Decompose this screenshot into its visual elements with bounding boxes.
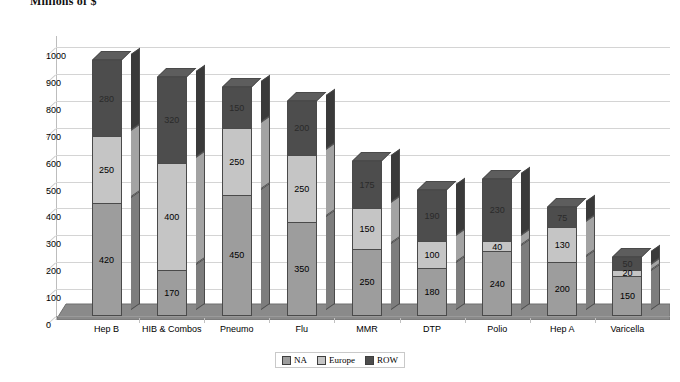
bar-segment-na[interactable]: 240 — [482, 251, 512, 316]
bar-side-row — [456, 177, 465, 234]
y-tick-label-700: 700 — [46, 132, 49, 142]
y-tick-label-500: 500 — [46, 186, 49, 196]
bar-segment-row[interactable]: 280 — [92, 60, 122, 135]
bar-segment-row[interactable]: 175 — [352, 161, 382, 208]
bar-side-na — [131, 191, 140, 310]
bar-stack: 23040240 — [482, 179, 512, 316]
bar-value-label: 350 — [288, 264, 316, 273]
bar-segment-na[interactable]: 450 — [222, 195, 252, 316]
bar-segment-na[interactable]: 420 — [92, 203, 122, 316]
legend-item-na[interactable]: NA — [282, 355, 307, 365]
bar-value-label: 280 — [93, 94, 121, 103]
legend-swatch-icon — [282, 356, 291, 365]
bar-value-label: 180 — [418, 287, 446, 296]
bar-stack: 200250350 — [287, 101, 317, 316]
bar-value-label: 250 — [353, 278, 381, 287]
bar-segment-row[interactable]: 190 — [417, 190, 447, 241]
bar-value-label: 150 — [223, 104, 251, 113]
bar-side-europe — [391, 196, 400, 242]
bar-value-label: 250 — [223, 157, 251, 166]
x-tick-mark — [530, 318, 531, 323]
bar-segment-na[interactable]: 170 — [157, 270, 187, 316]
bar-side-na — [651, 264, 660, 310]
bar-value-label: 150 — [613, 291, 641, 300]
bar-segment-europe[interactable]: 250 — [287, 155, 317, 222]
bar-segment-row[interactable]: 200 — [287, 101, 317, 155]
x-tick-mark — [269, 318, 270, 323]
legend-item-europe[interactable]: Europe — [317, 355, 355, 365]
bar-segment-na[interactable]: 180 — [417, 268, 447, 316]
bar-stack: 75130200 — [547, 207, 577, 316]
bar-segment-europe[interactable]: 250 — [92, 136, 122, 203]
bar-value-label: 230 — [483, 206, 511, 215]
legend-item-row[interactable]: ROW — [365, 355, 398, 365]
bar-top-face — [417, 181, 456, 190]
bar-segment-europe[interactable]: 40 — [482, 241, 512, 252]
y-tick-label-200: 200 — [46, 266, 49, 276]
bar-segment-row[interactable]: 230 — [482, 179, 512, 241]
bar-stack: 320400170 — [157, 77, 187, 316]
bar-segment-europe[interactable]: 100 — [417, 241, 447, 268]
x-tick-label-hib-combos: HIB & Combos — [142, 324, 202, 334]
bar-side-row — [261, 75, 270, 121]
bar-side-na — [521, 239, 530, 310]
page-title: Millions of $ — [30, 0, 97, 9]
bar-side-na — [196, 258, 205, 310]
y-tick-label-300: 300 — [46, 239, 49, 249]
x-tick-mark — [595, 318, 596, 323]
bar-top-face — [222, 78, 261, 87]
bar-stack: 280250420 — [92, 60, 122, 316]
bar-segment-row[interactable]: 75 — [547, 207, 577, 227]
bar-side-na — [456, 255, 465, 309]
x-tick-mark — [204, 318, 205, 323]
legend-swatch-icon — [317, 356, 326, 365]
bar-value-label: 420 — [93, 255, 121, 264]
x-tick-label-hep-b: Hep B — [94, 324, 119, 334]
bar-segment-na[interactable]: 200 — [547, 262, 577, 316]
bar-segment-europe[interactable]: 130 — [547, 227, 577, 262]
bar-top-face — [352, 152, 391, 161]
bar-value-label: 175 — [353, 181, 381, 190]
bar-value-label: 170 — [158, 289, 186, 298]
bar-segment-row[interactable]: 50 — [612, 257, 642, 270]
y-tick-label-900: 900 — [46, 78, 49, 88]
x-tick-mark — [139, 318, 140, 323]
bar-stack: 175150250 — [352, 161, 382, 316]
bar-segment-europe[interactable]: 150 — [352, 208, 382, 248]
bar-segment-europe[interactable]: 400 — [157, 163, 187, 271]
bar-side-face — [642, 310, 651, 316]
x-tick-label-polio: Polio — [487, 324, 507, 334]
legend-label: NA — [294, 355, 307, 365]
legend-label: Europe — [329, 355, 355, 365]
y-tick-label-100: 100 — [46, 293, 49, 303]
bar-segment-na[interactable]: 250 — [352, 249, 382, 316]
bar-value-label: 40 — [483, 242, 511, 251]
y-tick-label-400: 400 — [46, 212, 49, 222]
bar-side-row — [391, 149, 400, 202]
bar-top-face — [482, 170, 521, 179]
bar-segment-row[interactable]: 150 — [222, 87, 252, 127]
y-tick-label-600: 600 — [46, 159, 49, 169]
bar-segment-row[interactable]: 320 — [157, 77, 187, 163]
bar-stack: 5020150 — [612, 257, 642, 316]
chart-plot-area: 01002003004005006007008009001000 2802504… — [38, 20, 670, 320]
bar-value-label: 250 — [93, 165, 121, 174]
x-tick-label-varicella: Varicella — [611, 324, 645, 334]
bar-value-label: 250 — [288, 184, 316, 193]
bar-side-face — [512, 310, 521, 316]
bar-side-row — [131, 48, 140, 129]
x-tick-label-dtp: DTP — [423, 324, 441, 334]
x-tick-label-pneumo: Pneumo — [220, 324, 254, 334]
bar-side-row — [326, 89, 335, 149]
bar-segment-europe[interactable]: 250 — [222, 128, 252, 195]
bar-value-label: 450 — [223, 251, 251, 260]
bar-segment-na[interactable]: 350 — [287, 222, 317, 316]
bar-side-europe — [326, 142, 335, 215]
bar-value-label: 130 — [548, 241, 576, 250]
bar-value-label: 200 — [288, 124, 316, 133]
legend-label: ROW — [377, 355, 398, 365]
bar-segment-na[interactable]: 150 — [612, 276, 642, 316]
bar-value-label: 50 — [613, 260, 641, 269]
x-tick-label-hep-a: Hep A — [550, 324, 575, 334]
bar-side-row — [196, 64, 205, 156]
